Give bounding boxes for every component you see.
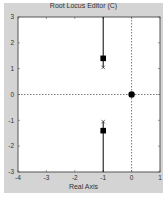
y-tick-label: 0 — [10, 91, 14, 98]
y-tick-label: -2 — [8, 142, 14, 149]
closed-loop-pole-square[interactable] — [100, 128, 106, 134]
y-tick-label: 2 — [10, 39, 14, 46]
x-tick-label: -4 — [15, 174, 21, 181]
y-tick-label: 1 — [10, 65, 14, 72]
x-tick-label: 0 — [130, 174, 134, 181]
compensator-pole-marker[interactable] — [128, 91, 134, 97]
y-tick-label: 3 — [10, 13, 14, 20]
x-tick-label: -3 — [44, 174, 50, 181]
y-tick-label: -3 — [8, 168, 14, 175]
x-tick-label: -1 — [100, 174, 106, 181]
x-tick-label: 1 — [158, 174, 162, 181]
x-tick-label: -2 — [72, 174, 78, 181]
root-locus-plot[interactable]: -4-3-2-101-3-2-10123 — [0, 0, 167, 200]
closed-loop-pole-square[interactable] — [100, 56, 106, 62]
y-tick-label: -1 — [8, 117, 14, 124]
